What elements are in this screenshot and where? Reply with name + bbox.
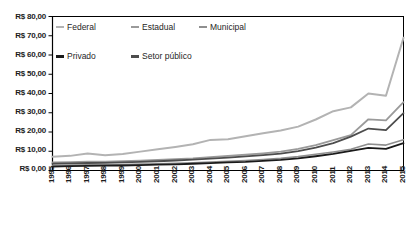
x-axis-label-2004: 2004 xyxy=(205,166,214,183)
x-axis-label-2003: 2003 xyxy=(187,166,196,183)
x-axis-label-1997: 1997 xyxy=(82,166,91,183)
line-chart: R$ 80,00 R$ 70,00 R$ 60,00 R$ 50,00 R$ 4… xyxy=(0,0,416,229)
legend-label-estadual: Estadual xyxy=(142,22,175,32)
legend-swatch-federal xyxy=(56,26,64,28)
x-axis-label-2015: 2015 xyxy=(398,166,407,183)
legend-item-municipal: Municipal xyxy=(199,22,246,32)
x-axis-label-2009: 2009 xyxy=(292,166,301,183)
plot-area xyxy=(0,0,416,229)
legend-item-federal: Federal xyxy=(56,22,96,32)
x-axis-label-2006: 2006 xyxy=(240,166,249,183)
legend-item-setor-publico: Setor público xyxy=(131,51,192,61)
legend-label-municipal: Municipal xyxy=(210,22,246,32)
x-axis-label-2012: 2012 xyxy=(345,166,354,183)
x-axis-label-2014: 2014 xyxy=(380,166,389,183)
legend-label-setor-publico: Setor público xyxy=(142,51,192,61)
legend-label-federal: Federal xyxy=(67,22,96,32)
x-axis-label-1998: 1998 xyxy=(99,166,108,183)
x-axis-label-1995: 1995 xyxy=(47,166,56,183)
x-axis-label-2001: 2001 xyxy=(152,166,161,183)
legend-item-estadual: Estadual xyxy=(131,22,175,32)
x-axis-label-2005: 2005 xyxy=(222,166,231,183)
x-axis-label-2011: 2011 xyxy=(328,166,337,183)
legend-swatch-municipal xyxy=(199,26,207,28)
legend-swatch-estadual xyxy=(131,26,139,28)
legend-swatch-privado xyxy=(56,55,64,58)
x-axis-label-1996: 1996 xyxy=(64,166,73,183)
x-axis-label-1999: 1999 xyxy=(117,166,126,183)
x-axis-label-2002: 2002 xyxy=(170,166,179,183)
x-axis-label-2000: 2000 xyxy=(134,166,143,183)
x-axis-label-2013: 2013 xyxy=(363,166,372,183)
legend-swatch-setor-publico xyxy=(131,55,139,58)
x-axis-label-2010: 2010 xyxy=(310,166,319,183)
legend-item-privado: Privado xyxy=(56,51,96,61)
x-axis-label-2008: 2008 xyxy=(275,166,284,183)
legend-label-privado: Privado xyxy=(67,51,96,61)
x-axis-label-2007: 2007 xyxy=(257,166,266,183)
